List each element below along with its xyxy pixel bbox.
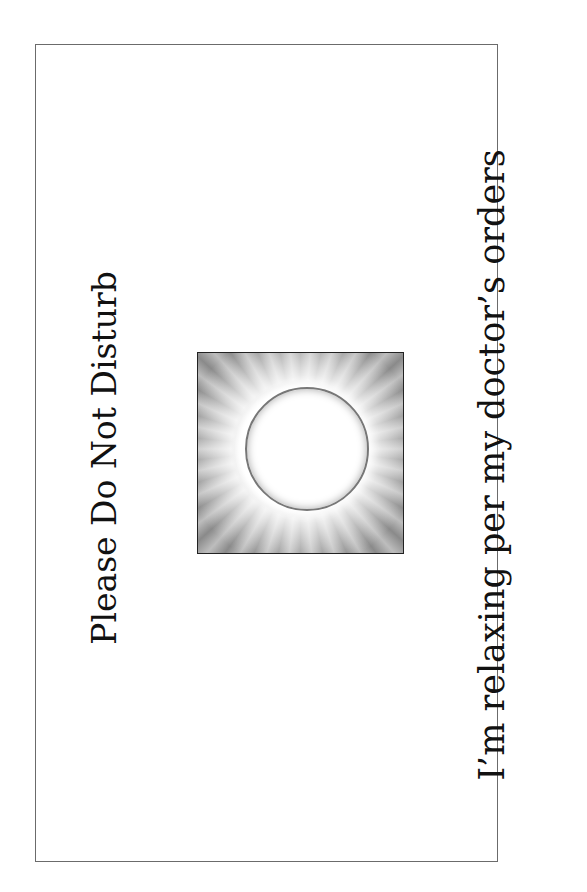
sun-disc (245, 387, 369, 511)
heading-text: Please Do Not Disturb (85, 271, 124, 645)
message-text: I’m relaxing per my doctor’s orders (472, 149, 512, 781)
sun-eclipse-icon (197, 352, 404, 554)
